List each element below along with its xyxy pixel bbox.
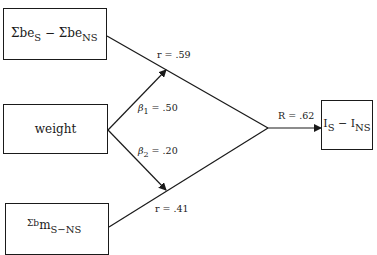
r2-value: .41	[174, 203, 189, 214]
be-ns-sub: NS	[82, 32, 98, 43]
beta1-value: .50	[163, 102, 178, 113]
be-ns-main: Σbe	[59, 26, 82, 40]
node-outcome: IS − INS	[321, 100, 373, 150]
edge-label-R: R = .62	[278, 111, 314, 121]
R-value: .62	[299, 110, 314, 121]
node-be-difference-label: ΣbeS − ΣbeNS	[11, 26, 98, 43]
beta2-eq: =	[149, 145, 163, 156]
node-weight-label: weight	[35, 122, 76, 136]
be-s-main: Σbe	[11, 26, 34, 40]
node-weight: weight	[3, 104, 108, 154]
beta1-eq: =	[149, 102, 163, 113]
r1-value: .59	[176, 49, 191, 60]
edge-label-r1: r = .59	[157, 50, 191, 60]
beta2-value: .20	[163, 145, 178, 156]
R-prefix: R =	[278, 110, 299, 121]
edge-weight-beta1-arrow	[108, 70, 166, 130]
r2-prefix: r =	[155, 203, 174, 214]
node-be-difference: ΣbeS − ΣbeNS	[3, 8, 107, 60]
bm-sub: S−NS	[51, 224, 82, 235]
i-s-sub: S	[328, 122, 335, 133]
edge-weight-beta2-arrow	[108, 130, 166, 190]
minus-op: −	[41, 26, 59, 40]
node-bm-difference-label: ΣbmS−NS	[27, 218, 81, 235]
minus-op: −	[335, 117, 351, 130]
edge-label-beta2: β2 = .20	[138, 146, 178, 159]
node-outcome-label: IS − INS	[323, 117, 370, 133]
node-bm-difference: ΣbmS−NS	[5, 203, 109, 255]
i-ns-sub: NS	[355, 122, 371, 133]
edge-label-r2: r = .41	[155, 204, 189, 214]
r1-prefix: r =	[157, 49, 176, 60]
bm-m: m	[39, 218, 50, 232]
bm-main: Σb	[27, 218, 39, 228]
edge-label-beta1: β1 = .50	[138, 103, 178, 116]
